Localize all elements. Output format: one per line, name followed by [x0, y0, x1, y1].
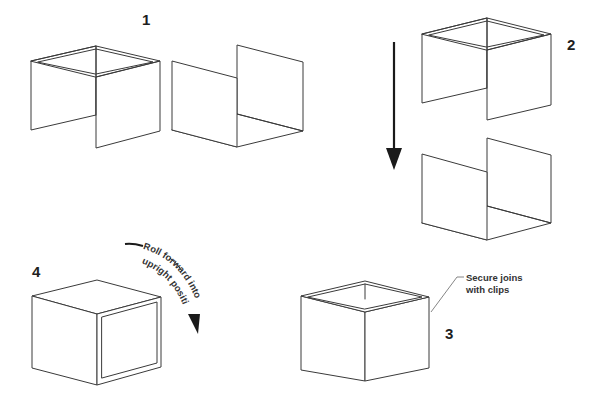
step-number-3: 3 — [445, 326, 453, 341]
secure-joins-callout: Secure joins with clips — [466, 272, 523, 296]
step1-open-half — [172, 45, 303, 147]
callout-line2: with clips — [466, 284, 523, 296]
step-number-1: 1 — [142, 12, 150, 27]
step4-closed-box — [32, 280, 161, 385]
step2-top-half — [422, 18, 551, 120]
step2-bottom-half — [422, 138, 551, 240]
step3-assembled-box — [301, 277, 464, 381]
step1-framed-half — [31, 46, 160, 148]
callout-line1: Secure joins — [466, 272, 523, 284]
assembly-diagram: Roll forward into upright position — [0, 0, 601, 409]
callout-leader-line — [431, 277, 464, 312]
step-number-2: 2 — [567, 37, 575, 52]
step-number-4: 4 — [32, 264, 40, 279]
arrow-down-icon — [386, 42, 402, 170]
